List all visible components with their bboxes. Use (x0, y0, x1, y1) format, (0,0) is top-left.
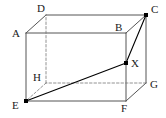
construction-line-E-X (26, 63, 126, 101)
vertex-label-E: E (12, 100, 19, 111)
cuboid-figure: D C A B X H G E F (0, 0, 166, 118)
vertex-label-B: B (115, 22, 122, 33)
vertex-label-G: G (150, 79, 158, 90)
vertex-label-F: F (121, 103, 127, 114)
construction-line-X-C (126, 15, 146, 63)
point-marker-E (24, 99, 28, 103)
vertex-label-C: C (151, 4, 158, 15)
point-marker-C (144, 13, 148, 17)
edge-A-D (26, 15, 46, 33)
edge-G-F (126, 83, 146, 101)
edge-H-E (26, 83, 46, 101)
vertex-label-H: H (33, 72, 41, 83)
vertex-label-X: X (131, 58, 139, 69)
cuboid-diagram-svg (0, 0, 166, 118)
vertex-marker-group (24, 13, 148, 103)
vertex-label-D: D (37, 3, 45, 14)
edge-B-C (126, 15, 146, 33)
construction-line-group (26, 15, 146, 101)
point-marker-X (124, 61, 128, 65)
vertex-label-A: A (12, 28, 20, 39)
